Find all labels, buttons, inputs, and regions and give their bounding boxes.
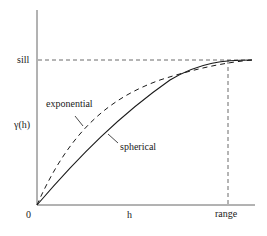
x-axis-label: h: [127, 210, 132, 220]
spherical-label: spherical: [120, 142, 156, 152]
spherical-curve: [37, 60, 252, 205]
origin-label: 0: [26, 210, 31, 220]
exponential-leader-line: [75, 116, 83, 126]
sill-label: sill: [17, 55, 29, 65]
exponential-label: exponential: [46, 99, 93, 109]
exponential-curve: [37, 60, 252, 205]
spherical-leader-line: [108, 134, 118, 143]
variogram-chart: [0, 0, 267, 236]
y-axis-label: γ(h): [14, 120, 30, 130]
range-label: range: [215, 209, 237, 219]
